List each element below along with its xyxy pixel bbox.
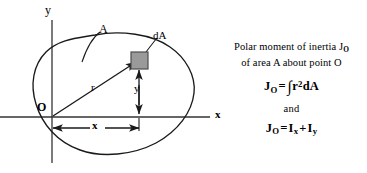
origin-label: O: [37, 101, 46, 113]
formula-polar-moment-integral: JO=∫r2dA: [216, 78, 367, 96]
formula-text-block: Polar moment of inertia JO of area A abo…: [216, 41, 367, 136]
formula-2-lhs-subscript: O: [272, 126, 279, 136]
formula-1-equals: =: [278, 79, 285, 93]
figure-root: y x O A dA r y x Polar moment of inertia…: [0, 0, 367, 173]
formula-1-differential: dA: [303, 79, 319, 93]
formula-2-term-1-subscript: x: [294, 126, 299, 136]
area-outline: [33, 33, 194, 155]
coordinate-axes: [0, 20, 210, 163]
differential-area-element: [131, 52, 148, 69]
area-label: A: [99, 23, 108, 35]
formula-1-lhs-subscript: O: [270, 85, 277, 95]
y-axis-label: y: [45, 4, 51, 16]
radius-label: r: [91, 82, 95, 93]
formula-conjunction: and: [216, 103, 367, 114]
caption-line-2: of area A about point O: [216, 57, 367, 70]
caption-line-1-subscript: O: [343, 45, 349, 54]
formula-2-equals: =: [280, 121, 287, 135]
formula-polar-moment-sum: JO=Ix+Iy: [216, 121, 367, 136]
element-label: dA: [153, 30, 166, 41]
y-distance-label: y: [134, 83, 140, 94]
x-distance-label: x: [92, 120, 98, 131]
formula-2-plus: +: [299, 121, 306, 135]
formula-2-term-2-subscript: y: [313, 126, 318, 136]
caption-line-1-text: Polar moment of inertia J: [234, 41, 343, 52]
caption-line-1: Polar moment of inertia JO: [216, 41, 367, 57]
